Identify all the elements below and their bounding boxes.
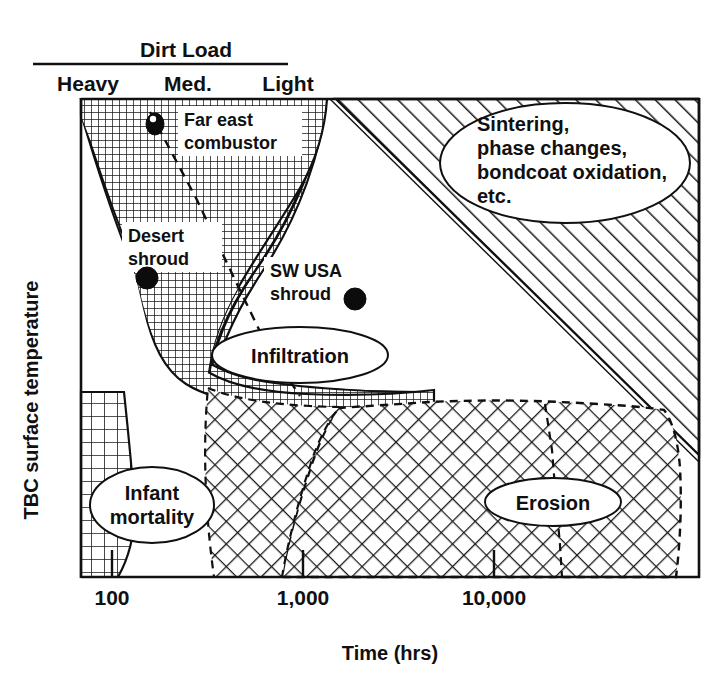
infiltration-label: Infiltration (251, 345, 349, 367)
regime-map-svg: Dirt Load Heavy Med. Light 100 1,000 10,… (0, 0, 723, 696)
dirt-load-level-light: Light (262, 72, 313, 95)
sintering-label-line1: Sintering, (477, 113, 569, 135)
erosion-label: Erosion (516, 492, 590, 514)
far-east-combustor-label-line2: combustor (184, 133, 277, 153)
label-infant-mortality: Infant mortality (90, 467, 214, 543)
data-point-sw-usa-shroud: SW USA shroud (264, 257, 374, 310)
sw-usa-shroud-label-line2: shroud (270, 284, 331, 304)
sw-usa-shroud-marker (344, 288, 366, 310)
x-axis-labels: 100 1,000 10,000 Time (hrs) (94, 586, 526, 664)
x-tick-label-1000: 1,000 (277, 586, 330, 609)
dirt-load-level-heavy: Heavy (57, 72, 119, 95)
desert-shroud-marker (136, 267, 158, 289)
far-east-combustor-marker-highlight (150, 116, 156, 122)
dirt-load-header: Dirt Load Heavy Med. Light (33, 38, 314, 95)
dirt-load-level-med: Med. (164, 72, 212, 95)
y-axis-title: TBC surface temperature (20, 281, 42, 520)
label-erosion: Erosion (485, 478, 621, 526)
sw-usa-shroud-label-line1: SW USA (270, 261, 342, 281)
desert-shroud-label-line1: Desert (128, 226, 184, 246)
label-sintering: Sintering, phase changes, bondcoat oxida… (440, 103, 690, 223)
x-axis-title: Time (hrs) (342, 642, 438, 664)
infant-mortality-ellipse (90, 467, 214, 543)
sintering-label-line2: phase changes, (477, 137, 627, 159)
x-tick-label-10000: 10,000 (462, 586, 526, 609)
region-erosion (205, 388, 681, 577)
far-east-combustor-marker (146, 113, 164, 135)
sintering-label-line3: bondcoat oxidation, (477, 161, 667, 183)
infant-mortality-label-line1: Infant (125, 482, 180, 504)
dirt-load-title: Dirt Load (140, 38, 232, 61)
regime-map-figure: Dirt Load Heavy Med. Light 100 1,000 10,… (0, 0, 723, 696)
infant-mortality-label-line2: mortality (110, 506, 195, 528)
y-axis-labels: TBC surface temperature (20, 281, 42, 520)
label-infiltration: Infiltration (212, 327, 388, 383)
desert-shroud-label-line2: shroud (128, 249, 189, 269)
far-east-combustor-label-line1: Far east (184, 110, 253, 130)
sintering-label-line4: etc. (477, 185, 511, 207)
x-tick-label-100: 100 (94, 586, 129, 609)
